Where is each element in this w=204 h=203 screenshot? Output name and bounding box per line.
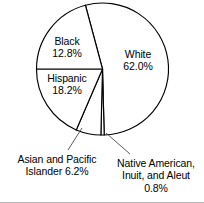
slice-label-native-line3: 0.8% <box>108 182 204 194</box>
slice-label-native-american: Native American, Inuit, and Aleut 0.8% <box>108 157 204 194</box>
slice-label-white-name: White <box>110 48 166 60</box>
slice-label-white-percent: 62.0% <box>110 60 166 72</box>
slice-label-black-percent: 12.8% <box>39 47 95 59</box>
slice-label-white: White 62.0% <box>110 48 166 73</box>
asian-leader-line <box>68 128 82 150</box>
slice-label-hispanic-name: Hispanic <box>34 72 100 84</box>
pie-chart-figure: White 62.0% Black 12.8% Hispanic 18.2% A… <box>0 0 204 203</box>
slice-label-asian-pacific-islander: Asian and Pacific Islander 6.2% <box>2 153 112 178</box>
slice-label-hispanic-percent: 18.2% <box>34 84 100 96</box>
slice-label-asian-line1: Asian and Pacific <box>2 153 112 165</box>
native-leader-line <box>106 133 130 154</box>
slice-label-native-line2: Inuit, and Aleut <box>108 169 204 181</box>
slice-label-hispanic: Hispanic 18.2% <box>34 72 100 97</box>
slice-label-asian-line2: Islander 6.2% <box>2 165 112 177</box>
slice-label-black-name: Black <box>39 35 95 47</box>
slice-label-native-line1: Native American, <box>108 157 204 169</box>
slice-label-black: Black 12.8% <box>39 35 95 60</box>
